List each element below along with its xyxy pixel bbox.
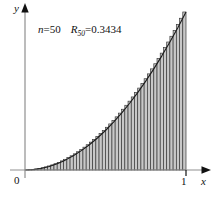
x-axis-label: x [201,176,206,187]
x-tick-label-one: 1 [181,176,187,187]
riemann-rectangle [70,156,73,170]
riemann-rectangle [176,24,179,170]
riemann-rectangle [96,137,99,170]
riemann-rectangle [144,79,147,170]
riemann-rectangle [83,147,86,170]
riemann-rectangle [160,53,163,170]
riemann-rectangle [183,12,186,170]
riemann-rectangle [163,48,166,170]
annotation-text: n=50R50=0.3434 [38,24,121,38]
riemann-rectangle [125,105,128,170]
riemann-rectangle [73,154,76,170]
annotation-r-value: 0.3434 [91,23,121,35]
riemann-rectangle [118,113,121,170]
riemann-rectangle [170,36,173,170]
origin-label: 0 [14,175,20,186]
annotation-r-subscript: 50 [77,29,85,38]
riemann-rectangle [86,145,89,170]
riemann-rectangle [141,83,144,170]
y-axis-arrowhead [21,3,28,13]
riemann-rectangle [180,18,183,170]
riemann-rectangle [112,120,115,170]
riemann-rectangle [89,142,92,170]
riemann-rectangle [115,117,118,170]
riemann-rectangle [102,131,105,171]
riemann-rectangle [151,69,154,170]
y-axis-label: y [14,3,19,14]
riemann-rectangle [134,93,137,170]
riemann-rectangle [157,59,160,170]
riemann-rectangle [138,88,141,170]
riemann-rectangle [93,139,96,170]
annotation-n-value: 50 [50,23,61,35]
riemann-rectangle [122,109,125,170]
riemann-rectangle [80,150,83,170]
riemann-rectangle [154,64,157,170]
riemann-rectangle [109,124,112,170]
riemann-rectangle [167,42,170,170]
riemann-rectangle [99,134,102,170]
riemann-sum-figure: y x 0 1 n=50R50=0.3434 [0,0,215,198]
riemann-rectangle [173,30,176,170]
riemann-rectangle [77,152,80,170]
x-axis-arrowhead [202,166,212,173]
riemann-rectangle [147,74,150,170]
riemann-rectangle [128,101,131,170]
riemann-rectangle [131,97,134,170]
riemann-rectangle [106,127,109,170]
